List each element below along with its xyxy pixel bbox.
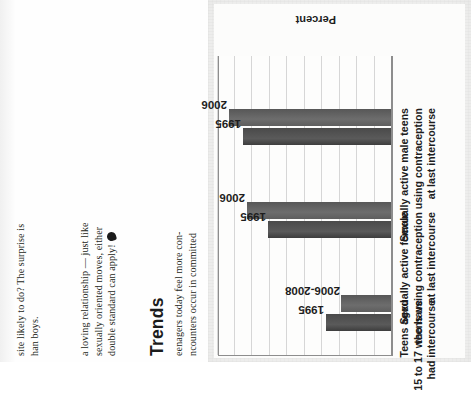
bar-label-group1-2006-2008: 2006-2008 <box>285 285 340 297</box>
bar-group3-1995 <box>243 128 392 145</box>
text-line: a loving relationship — just like <box>78 222 92 356</box>
gridline-90 <box>234 56 235 355</box>
x-axis-line <box>391 56 392 355</box>
text-line: eenagers today feel more con- <box>172 231 186 356</box>
bar-group3-2006 <box>229 109 392 126</box>
bar-label-group2-2006: 2006 <box>219 192 245 204</box>
text-line: han boys. <box>28 224 42 356</box>
text-column-right: eenagers today feel more con- ncounters … <box>172 231 199 356</box>
bar-label-group3-1995: 1995 <box>215 118 241 130</box>
bar-chart: 1995 2006-2008 1995 2006 1995 2006 10 20… <box>216 4 464 356</box>
bar-group1-2006-2008 <box>341 295 392 312</box>
leaf-endmark-icon <box>106 231 117 242</box>
bar-label-group2-1995: 1995 <box>240 211 266 223</box>
text-line: double standard can apply! <box>106 244 117 356</box>
figure-panel: 1995 2006-2008 1995 2006 1995 2006 10 20… <box>208 0 471 362</box>
category-line: Sexually active male teens <box>398 108 412 260</box>
text-column-middle: a loving relationship — just like sexual… <box>78 222 119 356</box>
bar-label-group1-1995: 1995 <box>298 304 324 316</box>
text-line-with-endmark: double standard can apply! <box>105 222 119 356</box>
category-line: at last intercourse <box>425 108 439 260</box>
bar-group1-1995 <box>326 314 393 331</box>
bar-label-group3-2006: 2006 <box>201 99 227 111</box>
bar-group2-2006 <box>247 202 392 219</box>
category-label-group3: Sexually active male teens using contrac… <box>398 108 439 260</box>
category-line: using contraception <box>412 108 426 260</box>
text-column-left: site likely to do? The surprise is han b… <box>14 224 41 356</box>
bar-group2-1995 <box>268 221 392 238</box>
section-heading-trends: Trends <box>146 297 169 356</box>
y-axis-title: Percent <box>296 14 336 26</box>
text-line: sexually oriented moves, either <box>92 222 106 356</box>
text-line: ncounters occur in committed <box>186 231 200 356</box>
chart-plot-area: 1995 2006-2008 1995 2006 1995 2006 <box>218 56 393 356</box>
text-line: site likely to do? The surprise is <box>14 224 28 356</box>
